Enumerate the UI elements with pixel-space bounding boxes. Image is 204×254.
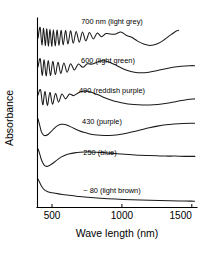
y-axis-label: Absorbance — [3, 90, 15, 146]
absorbance-spectra-figure: 50010001500 Wave length (nm) Absorbance … — [0, 0, 204, 254]
series-annotation: 490 (reddish purple) — [79, 86, 145, 95]
series-annotation: 600 (light green) — [81, 56, 135, 65]
series-annotation: 430 (purple) — [82, 117, 122, 126]
x-axis-label: Wave length (nm) — [76, 227, 158, 239]
x-axis-ticklabel: 500 — [44, 210, 61, 221]
chart-canvas: 50010001500 Wave length (nm) Absorbance … — [0, 0, 204, 254]
series-annotation: ~ 80 (light brown) — [83, 186, 140, 195]
x-axis-ticklabel: 1000 — [111, 210, 134, 221]
series-annotation: 250 (blue) — [83, 148, 116, 157]
series-annotation: 700 nm (light grey) — [81, 17, 143, 26]
x-axis-ticklabel: 1500 — [170, 210, 193, 221]
